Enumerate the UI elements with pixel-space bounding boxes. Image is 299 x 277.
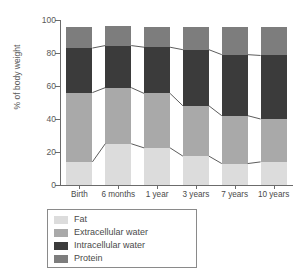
stacked-bar (144, 20, 170, 185)
y-axis-label: % of body weight (12, 17, 22, 137)
legend-label: Fat (74, 213, 87, 226)
plot-area (60, 20, 293, 185)
connector-line (92, 46, 105, 48)
bar-segment-intracellular-water (66, 48, 92, 93)
segment-connector-lines (60, 20, 293, 185)
bar-segment-protein (66, 27, 92, 48)
stacked-bar (183, 20, 209, 185)
bar-segment-fat (183, 156, 209, 185)
legend-item: Protein (54, 252, 196, 265)
connector-line (131, 46, 144, 48)
bar-segment-fat (222, 164, 248, 185)
connector-line (131, 88, 144, 94)
bar-segment-intracellular-water (144, 47, 170, 93)
bar-segment-extracellular-water (261, 119, 287, 162)
legend-label: Extracellular water (74, 226, 148, 239)
bar-segment-fat (261, 162, 287, 185)
legend-item: Fat (54, 213, 196, 226)
stacked-bar (66, 20, 92, 185)
connector-line (170, 148, 183, 156)
legend-swatch-icon (54, 242, 68, 250)
connector-line (248, 55, 261, 56)
legend-item: Intracellular water (54, 239, 196, 252)
connector-line (209, 106, 222, 116)
y-tick-label: 20 (32, 147, 56, 157)
stacked-bar (261, 20, 287, 185)
x-axis-line (60, 185, 293, 186)
chart-legend: FatExtracellular waterIntracellular wate… (47, 209, 197, 268)
bar-segment-intracellular-water (261, 55, 287, 119)
x-tick-mark (274, 185, 275, 189)
connector-line (131, 144, 144, 148)
bar-segment-extracellular-water (144, 93, 170, 147)
connector-line (92, 88, 105, 93)
x-tick-mark (235, 185, 236, 189)
y-tick-label: 60 (32, 81, 56, 91)
bar-segment-intracellular-water (105, 46, 131, 88)
x-tick-mark (118, 185, 119, 189)
stacked-bar (105, 20, 131, 185)
bar-segment-protein (183, 27, 209, 50)
y-tick-label: 100 (32, 15, 56, 25)
x-tick-mark (79, 185, 80, 189)
x-tick-label: 3 years (182, 190, 209, 199)
chart-figure: % of body weight 020406080100 Birth6 mon… (0, 0, 299, 277)
bar-segment-extracellular-water (222, 116, 248, 164)
legend-item: Extracellular water (54, 226, 196, 239)
connector-line (170, 93, 183, 105)
bar-segment-intracellular-water (183, 50, 209, 106)
stacked-bar (222, 20, 248, 185)
bar-segment-extracellular-water (105, 88, 131, 144)
x-tick-mark (157, 185, 158, 189)
x-tick-label: 7 years (221, 190, 248, 199)
x-tick-label: 10 years (258, 190, 289, 199)
bar-segment-protein (105, 26, 131, 46)
y-tick-label: 80 (32, 48, 56, 58)
connector-line (248, 116, 261, 119)
bar-segment-extracellular-water (183, 106, 209, 156)
x-tick-label: Birth (71, 190, 88, 199)
x-tick-label: 1 year (146, 190, 169, 199)
x-tick-label: 6 months (101, 190, 135, 199)
connector-line (170, 47, 183, 49)
connector-line (209, 156, 222, 163)
bar-segment-intracellular-water (222, 55, 248, 116)
bar-segment-fat (66, 162, 92, 185)
legend-swatch-icon (54, 255, 68, 263)
legend-label: Protein (74, 252, 103, 265)
y-tick-label: 0 (32, 180, 56, 190)
legend-swatch-icon (54, 216, 68, 224)
x-tick-mark (196, 185, 197, 189)
bar-segment-protein (144, 27, 170, 48)
bar-segment-extracellular-water (66, 93, 92, 162)
bar-segment-protein (222, 27, 248, 54)
legend-label: Intracellular water (74, 239, 145, 252)
y-tick-label: 40 (32, 114, 56, 124)
bar-segment-fat (144, 148, 170, 185)
connector-line (209, 50, 222, 55)
legend-swatch-icon (54, 229, 68, 237)
connector-line (92, 144, 105, 162)
bar-segment-fat (105, 144, 131, 185)
connector-line (248, 162, 261, 164)
bar-segment-protein (261, 27, 287, 55)
